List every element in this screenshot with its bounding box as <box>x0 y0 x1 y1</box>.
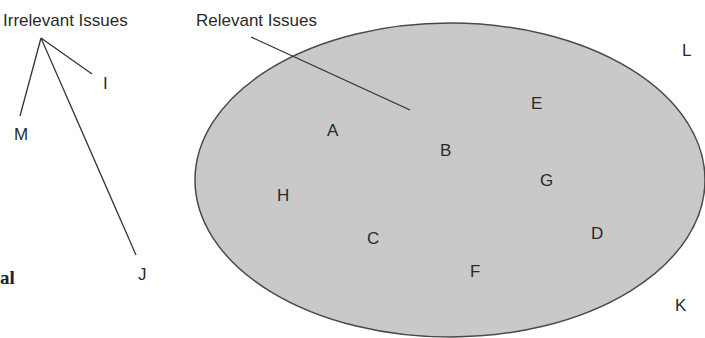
issue-item-b: B <box>440 142 451 159</box>
issue-item-h: H <box>277 187 289 204</box>
irrelevant-issues-label: Irrelevant Issues <box>3 12 128 29</box>
pointer-line-irrelevant-j <box>41 38 136 255</box>
issue-item-j: J <box>138 266 147 283</box>
issue-item-d: D <box>591 225 603 242</box>
relevant-issues-label: Relevant Issues <box>196 12 317 29</box>
cropped-text-fragment: al <box>0 268 15 287</box>
issue-item-k: K <box>675 297 686 314</box>
issue-item-i: I <box>103 75 108 92</box>
issue-item-g: G <box>540 172 553 189</box>
pointer-line-irrelevant-m <box>20 38 41 116</box>
issue-item-c: C <box>367 230 379 247</box>
diagram-canvas <box>0 0 705 338</box>
issue-item-m: M <box>14 126 28 143</box>
issue-item-f: F <box>470 263 480 280</box>
issue-item-a: A <box>327 122 338 139</box>
relevant-issues-ellipse <box>195 23 705 337</box>
issue-item-l: L <box>682 42 691 59</box>
issue-item-e: E <box>531 95 542 112</box>
